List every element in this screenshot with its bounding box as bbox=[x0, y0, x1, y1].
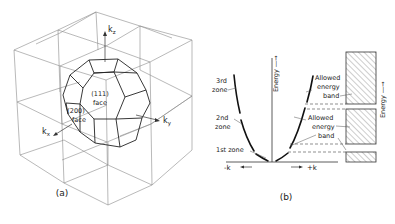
zone-2-label-line1: 2nd bbox=[216, 114, 228, 122]
ky-label: ky bbox=[163, 116, 172, 127]
face-111-label-line1: (111) bbox=[91, 90, 108, 98]
panel-a: kz ky kx (111) face (200) face (a) bbox=[14, 12, 192, 205]
face-200-label-line2: face bbox=[72, 116, 86, 124]
band-upper-label-line2: energy bbox=[317, 83, 340, 91]
kz-axis: kz bbox=[103, 25, 116, 62]
band-lower-label-line3: band bbox=[318, 132, 334, 140]
kx-label: kx bbox=[42, 127, 51, 137]
allowed-band-upper bbox=[346, 52, 376, 104]
allowed-band-middle bbox=[346, 109, 376, 144]
band-upper-label-line3: band bbox=[323, 92, 339, 100]
zone-3-label-line2: zone bbox=[212, 86, 228, 94]
band-upper-label-line1: Allowed bbox=[315, 74, 340, 82]
reciprocal-lattice-grid bbox=[14, 12, 192, 205]
kz-label: kz bbox=[108, 25, 116, 35]
figure-canvas: kz ky kx (111) face (200) face (a) Energ… bbox=[0, 0, 395, 224]
band-energy-axis-label: Energy —→ bbox=[379, 81, 387, 118]
band-lower-label-line2: energy bbox=[312, 123, 335, 131]
face-200-label-line1: (200) bbox=[67, 107, 84, 115]
panel-b: Energy —→ -k +k 3rd zone 2 bbox=[212, 52, 387, 202]
zone-1-label: 1st zone bbox=[216, 146, 244, 154]
zone-2-label-line2: zone bbox=[215, 123, 231, 131]
pos-k-label: +k bbox=[307, 164, 318, 172]
zone-3-label-line1: 3rd bbox=[216, 77, 227, 85]
panel-b-caption: (b) bbox=[280, 192, 293, 202]
face-111-label-line2: face bbox=[93, 99, 107, 107]
allowed-band-lower bbox=[346, 152, 376, 162]
panel-a-caption: (a) bbox=[56, 188, 69, 198]
band-lower-label-line1: Allowed bbox=[308, 114, 333, 122]
energy-axis-label: Energy —→ bbox=[272, 55, 280, 92]
neg-k-label: -k bbox=[224, 164, 232, 172]
